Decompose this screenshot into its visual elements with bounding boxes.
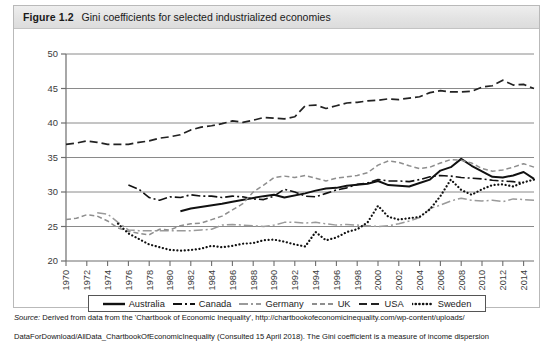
- svg-text:2012: 2012: [498, 270, 508, 290]
- svg-text:1980: 1980: [165, 270, 175, 290]
- legend-swatch-germany: [239, 300, 261, 308]
- svg-text:2000: 2000: [373, 270, 383, 290]
- legend-item-usa[interactable]: USA: [355, 299, 408, 309]
- svg-text:1996: 1996: [332, 270, 342, 290]
- svg-text:35: 35: [48, 152, 58, 163]
- series-line-uk: [66, 160, 534, 235]
- series-line-usa: [66, 80, 534, 144]
- svg-text:1984: 1984: [207, 270, 217, 290]
- legend-swatch-australia: [103, 300, 125, 308]
- legend-item-australia[interactable]: Australia: [99, 299, 169, 309]
- svg-text:20: 20: [48, 255, 58, 266]
- figure-title-bar: Figure 1.2 Gini coefficients for selecte…: [14, 6, 539, 29]
- svg-text:30: 30: [48, 186, 58, 197]
- svg-text:1982: 1982: [186, 270, 196, 290]
- legend-label-uk: UK: [338, 299, 351, 309]
- svg-text:2004: 2004: [415, 270, 425, 290]
- series-line-sweden: [118, 180, 534, 251]
- source-label: Source:: [14, 313, 40, 322]
- svg-text:1998: 1998: [353, 270, 363, 290]
- svg-text:45: 45: [48, 83, 58, 94]
- y-axis: 20253035404550: [48, 48, 66, 266]
- gridlines: [66, 54, 534, 261]
- chart-plot-area: 20253035404550 1970197219741976197819801…: [14, 29, 539, 307]
- figure-number: Figure 1.2: [23, 11, 74, 23]
- svg-text:1972: 1972: [82, 270, 92, 290]
- svg-text:1974: 1974: [103, 270, 113, 290]
- svg-text:1994: 1994: [311, 270, 321, 290]
- source-text-line2: DataForDownload/AllData_ChartbookOfEcono…: [14, 332, 542, 341]
- svg-text:1990: 1990: [269, 270, 279, 290]
- svg-text:1988: 1988: [249, 270, 259, 290]
- svg-text:50: 50: [48, 48, 58, 59]
- svg-text:2008: 2008: [457, 270, 467, 290]
- series-line-germany: [97, 198, 534, 230]
- legend-label-germany: Germany: [265, 299, 303, 309]
- svg-text:25: 25: [48, 221, 58, 232]
- x-axis: 1970197219741976197819801982198419861988…: [61, 261, 529, 290]
- svg-text:2002: 2002: [394, 270, 404, 290]
- gini-line-chart: 20253035404550 1970197219741976197819801…: [14, 29, 539, 307]
- legend-swatch-sweden: [412, 300, 434, 308]
- svg-text:1976: 1976: [124, 270, 134, 290]
- figure-title: Gini coefficients for selected industria…: [82, 11, 331, 23]
- svg-text:1970: 1970: [61, 270, 71, 290]
- svg-text:40: 40: [48, 117, 58, 128]
- legend-item-sweden[interactable]: Sweden: [408, 299, 476, 309]
- source-note: Source: Derived from data from the 'Char…: [14, 313, 542, 323]
- legend-label-usa: USA: [385, 299, 404, 309]
- figure-frame: Figure 1.2 Gini coefficients for selecte…: [13, 5, 540, 308]
- legend-swatch-canada: [173, 300, 195, 308]
- legend-item-uk[interactable]: UK: [308, 299, 355, 309]
- svg-text:2006: 2006: [436, 270, 446, 290]
- svg-text:1992: 1992: [290, 270, 300, 290]
- svg-text:2010: 2010: [477, 270, 487, 290]
- svg-text:1978: 1978: [145, 270, 155, 290]
- legend-label-sweden: Sweden: [438, 299, 472, 309]
- legend-item-germany[interactable]: Germany: [235, 299, 307, 309]
- legend-item-canada[interactable]: Canada: [169, 299, 236, 309]
- chart-legend: AustraliaCanadaGermanyUKUSASweden: [88, 295, 486, 312]
- legend-swatch-uk: [312, 300, 334, 308]
- legend-label-canada: Canada: [199, 299, 232, 309]
- legend-label-australia: Australia: [129, 299, 165, 309]
- data-series-group: [66, 80, 534, 250]
- source-text-line1: Derived from data from the 'Chartbook of…: [40, 313, 464, 322]
- svg-text:2014: 2014: [519, 270, 529, 290]
- legend-swatch-usa: [359, 300, 381, 308]
- svg-text:1986: 1986: [228, 270, 238, 290]
